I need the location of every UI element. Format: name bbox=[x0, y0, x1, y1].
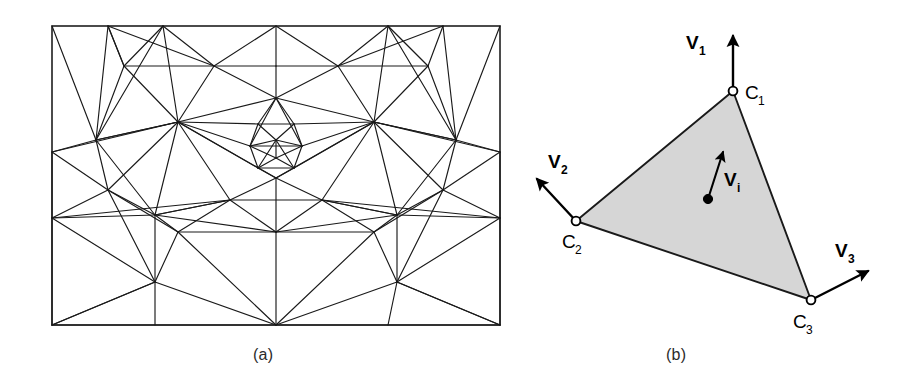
corner-node-c1-subscript: 1 bbox=[758, 94, 765, 108]
figure-root: V 1 V 2 V 3 V i C 1 C 2 bbox=[0, 0, 913, 380]
vector-v3-arrow bbox=[811, 271, 868, 300]
corner-node-c1-marker bbox=[729, 87, 738, 96]
vector-v2-subscript: 2 bbox=[561, 163, 568, 177]
vector-vi-label: V bbox=[724, 169, 737, 190]
panel-a-mesh bbox=[0, 0, 560, 380]
triangle-face bbox=[576, 91, 811, 300]
element-svg: V 1 V 2 V 3 V i C 1 C 2 bbox=[560, 0, 913, 380]
corner-node-c1-label: C bbox=[745, 82, 759, 103]
corner-node-c2-subscript: 2 bbox=[575, 243, 582, 257]
vector-v2-label: V bbox=[548, 151, 561, 172]
interior-node-marker bbox=[703, 194, 712, 203]
corner-node-c2-label: C bbox=[562, 231, 576, 252]
corner-node-c2-marker bbox=[572, 217, 581, 226]
vector-v3-label: V bbox=[835, 240, 848, 261]
vector-v1-subscript: 1 bbox=[699, 44, 706, 58]
vector-v1-label: V bbox=[686, 32, 699, 53]
mesh-edges bbox=[52, 26, 500, 325]
corner-node-c3-marker bbox=[807, 296, 816, 305]
caption-panel-a: (a) bbox=[253, 346, 273, 364]
corner-node-c3-subscript: 3 bbox=[806, 323, 813, 337]
mesh-svg bbox=[0, 0, 560, 380]
corner-node-c3-label: C bbox=[793, 311, 807, 332]
caption-panel-b: (b) bbox=[666, 346, 686, 364]
vector-vi-subscript: i bbox=[737, 181, 740, 195]
panel-b-element: V 1 V 2 V 3 V i C 1 C 2 bbox=[560, 0, 913, 380]
vector-v3-subscript: 3 bbox=[848, 252, 855, 266]
